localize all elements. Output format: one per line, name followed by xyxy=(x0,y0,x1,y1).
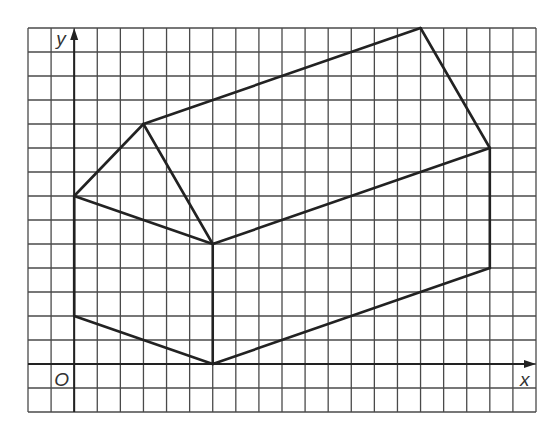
house-edge-CD xyxy=(143,124,212,244)
house-edge-GH xyxy=(421,28,490,148)
x-axis-arrow-icon xyxy=(524,360,536,368)
house-grid-diagram: x y O xyxy=(0,0,551,433)
house-edge-BC xyxy=(74,124,143,196)
y-axis-arrow-icon xyxy=(70,28,78,40)
y-axis-label: y xyxy=(54,28,67,49)
x-axis-label: x xyxy=(519,369,531,390)
origin-label: O xyxy=(54,369,69,390)
